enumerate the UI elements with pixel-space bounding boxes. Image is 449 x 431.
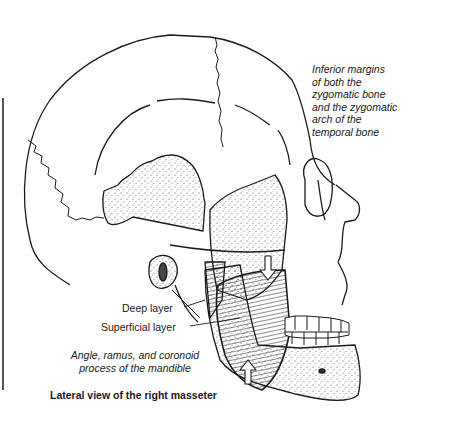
superficial-layer-label: Superficial layer (101, 321, 176, 334)
insertion-label: Angle, ramus, and coronoid process of th… (67, 349, 203, 374)
origin-label-line: zygomatic bone (312, 88, 397, 101)
insertion-label-line: process of the mandible (67, 362, 203, 375)
origin-label-line: of both the (312, 76, 397, 89)
deep-layer-label: Deep layer (122, 302, 173, 315)
origin-label: Inferior margins of both the zygomatic b… (312, 63, 397, 138)
figure-title: Lateral view of the right masseter (50, 389, 217, 401)
origin-label-line: and the zygomatic (312, 101, 397, 114)
origin-label-line: temporal bone (312, 126, 397, 139)
temporal-bone (103, 155, 205, 231)
insertion-label-line: Angle, ramus, and coronoid (67, 349, 203, 362)
origin-label-line: Inferior margins (312, 63, 397, 76)
origin-label-line: arch of the (312, 113, 397, 126)
teeth (285, 316, 349, 345)
